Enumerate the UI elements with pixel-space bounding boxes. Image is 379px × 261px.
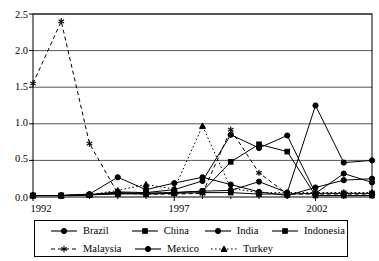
legend-symbol-filled-circle [49, 225, 79, 237]
data-point-filled-circle [200, 178, 205, 183]
data-point-filled-circle [369, 180, 374, 185]
data-point-filled-square [283, 228, 288, 233]
data-point-filled-square [142, 228, 147, 233]
legend-item-china[interactable]: China [130, 225, 203, 237]
data-point-filled-circle [256, 179, 261, 184]
chart-container: 2.5 2.0 1.5 1.0 0.5 0.0 1992 1997 2002 B… [0, 0, 379, 261]
data-point-filled-circle [341, 171, 346, 176]
data-point-filled-circle [145, 246, 150, 251]
legend-item-turkey[interactable]: Turkey [209, 243, 279, 255]
legend-item-mexico[interactable]: Mexico [133, 243, 209, 255]
legend-label: Indonesia [304, 225, 345, 236]
legend-item-indonesia[interactable]: Indonesia [270, 225, 347, 237]
series-line [33, 144, 372, 195]
legend-row: BrazilChinaIndiaIndonesia [35, 222, 347, 239]
legend-item-india[interactable]: India [203, 225, 270, 237]
legend-item-brazil[interactable]: Brazil [49, 225, 130, 237]
data-point-filled-circle [285, 133, 290, 138]
legend-symbol-filled-triangle [209, 243, 239, 255]
legend-label: Turkey [243, 243, 273, 254]
data-point-filled-circle [115, 175, 120, 180]
series-line [33, 21, 372, 194]
data-point-filled-circle [341, 160, 346, 165]
plot-border [33, 14, 372, 197]
series-malaysia [30, 18, 375, 197]
legend-label: China [164, 225, 189, 236]
legend-symbol-asterisk [49, 243, 79, 255]
legend-label: India [237, 225, 259, 236]
legend-label: Brazil [83, 225, 109, 236]
chart-legend: BrazilChinaIndiaIndonesia MalaysiaMexico… [34, 220, 348, 257]
legend-symbol-filled-square [130, 225, 160, 237]
gridlines [33, 14, 372, 160]
data-point-filled-square [228, 160, 233, 165]
legend-label: Malaysia [83, 243, 122, 254]
data-series-layer [30, 18, 375, 198]
data-point-filled-circle [172, 180, 177, 185]
data-point-filled-triangle [143, 182, 149, 187]
data-point-filled-square [285, 149, 290, 154]
data-point-filled-circle [61, 228, 66, 233]
legend-symbol-filled-circle [203, 225, 233, 237]
legend-symbol-filled-square [270, 225, 300, 237]
data-point-filled-circle [313, 103, 318, 108]
axis-ticks [29, 14, 372, 201]
legend-item-malaysia[interactable]: Malaysia [49, 243, 133, 255]
data-point-filled-circle [143, 191, 148, 196]
legend-row: MalaysiaMexicoTurkey [35, 240, 347, 257]
data-point-filled-triangle [221, 246, 227, 251]
data-point-filled-circle [200, 189, 205, 194]
legend-label: Mexico [167, 243, 199, 254]
data-point-filled-circle [256, 145, 261, 150]
legend-symbol-filled-circle [133, 243, 163, 255]
plot-frame [33, 14, 372, 197]
data-point-filled-circle [215, 228, 220, 233]
data-point-filled-circle [369, 158, 374, 163]
data-point-filled-circle [341, 178, 346, 183]
